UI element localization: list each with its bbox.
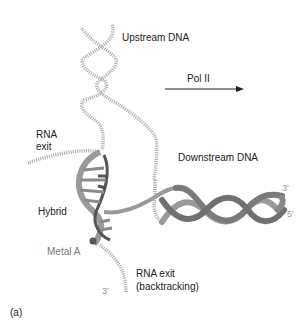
panel-label: (a) bbox=[10, 307, 22, 319]
rna-exit-backtracking-label-line2: (backtracking) bbox=[136, 281, 199, 293]
upstream-dna-label: Upstream DNA bbox=[122, 32, 189, 44]
rna-exit-backtracking-label-line1: RNA exit bbox=[136, 268, 175, 280]
metal-a-label: Metal A bbox=[47, 246, 80, 258]
downstream-5prime-label: 5' bbox=[287, 208, 294, 220]
pol-ii-direction-arrow bbox=[165, 86, 244, 92]
metal-a-sphere bbox=[90, 238, 97, 245]
hybrid-label: Hybrid bbox=[38, 206, 67, 218]
rna-exit-label-line2: exit bbox=[36, 141, 52, 153]
rna-3prime-label: 3' bbox=[102, 285, 109, 297]
downstream-3prime-label: 3' bbox=[282, 182, 289, 194]
downstream-dna-label: Downstream DNA bbox=[178, 152, 258, 164]
rna-exit-label-line1: RNA bbox=[36, 129, 57, 141]
pol-ii-label: Pol II bbox=[187, 73, 210, 85]
downstream-dna-helix bbox=[162, 188, 284, 222]
